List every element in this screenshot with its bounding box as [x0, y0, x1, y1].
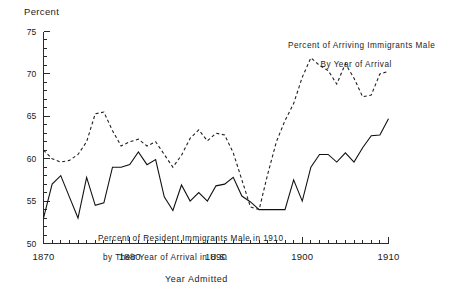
series-resident-immigrants-line	[44, 119, 389, 218]
y-tick-label: 50	[15, 239, 37, 249]
y-tick-label: 65	[15, 111, 37, 121]
x-tick-label: 1870	[24, 251, 64, 262]
x-tick-label: 1900	[282, 251, 322, 262]
x-tick-label: 1890	[196, 251, 236, 262]
series-layer	[44, 58, 389, 218]
y-axis-ticks	[44, 32, 50, 244]
axes-group	[44, 32, 389, 244]
y-tick-label: 75	[15, 27, 37, 37]
y-tick-label: 55	[15, 196, 37, 206]
x-tick-label: 1910	[369, 251, 409, 262]
x-axis-ticks	[44, 237, 389, 244]
y-tick-label: 70	[15, 69, 37, 79]
x-tick-label: 1880	[110, 251, 150, 262]
chart-container: Percent Year Admitted Percent of Arrivin…	[0, 0, 456, 294]
y-tick-label: 60	[15, 154, 37, 164]
